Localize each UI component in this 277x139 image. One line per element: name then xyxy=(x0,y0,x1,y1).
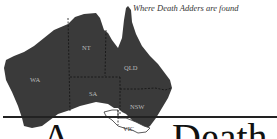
region-label-nsw: NSW xyxy=(130,103,145,110)
heading-word-2: Death xyxy=(172,118,268,139)
mainland-shaded xyxy=(4,6,172,130)
region-label-nt: NT xyxy=(82,44,91,51)
region-label-wa: WA xyxy=(30,76,40,83)
heading-word-1: A xyxy=(42,118,71,139)
region-label-qld: QLD xyxy=(124,64,138,71)
region-label-sa: SA xyxy=(89,90,98,97)
region-label-vic: VIC xyxy=(123,125,134,132)
